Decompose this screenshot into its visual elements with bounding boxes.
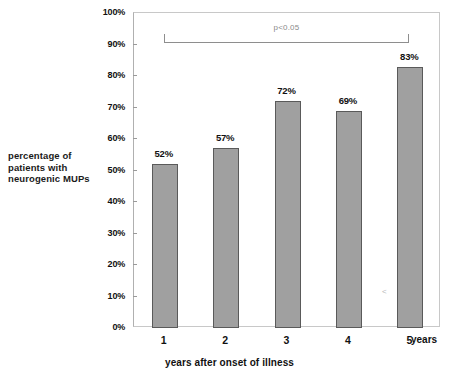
y-axis-tick-mark — [133, 75, 137, 76]
x-axis-tick-label: 2 — [200, 334, 250, 346]
y-axis-tick-label: 40% — [0, 196, 133, 206]
y-axis-tick-label: 60% — [0, 133, 133, 143]
y-axis-tick-mark — [133, 233, 137, 234]
y-axis-tick-label: 80% — [0, 70, 133, 80]
y-axis-tick-label: 100% — [0, 7, 133, 17]
y-axis-tick-mark — [133, 170, 137, 171]
y-axis-label-line-1: percentage of — [8, 150, 118, 162]
y-axis-tick-label: 50% — [0, 165, 133, 175]
significance-bracket — [164, 34, 410, 43]
y-axis-tick-label: 30% — [0, 228, 133, 238]
y-axis-tick-mark — [133, 44, 137, 45]
y-axis-tick-label: 10% — [0, 291, 133, 301]
bar-chart-figure: percentage of patients with neurogenic M… — [0, 0, 459, 378]
bar — [213, 148, 239, 328]
x-axis-unit-label: years — [411, 334, 437, 345]
bar-value-label: 83% — [384, 51, 434, 62]
significance-label: p<0.05 — [164, 23, 410, 32]
y-axis-tick-mark — [133, 138, 137, 139]
bar-value-label: 52% — [139, 148, 189, 159]
x-axis-tick-label: 1 — [139, 334, 189, 346]
y-axis-tick-label: 0% — [0, 322, 133, 332]
bar — [275, 101, 301, 328]
bar-value-label: 72% — [262, 85, 312, 96]
y-axis-tick-mark — [133, 201, 137, 202]
y-axis-tick-mark — [133, 107, 137, 108]
bar — [397, 67, 423, 328]
x-axis-title: years after onset of illness — [0, 357, 459, 368]
bar-value-label: 57% — [200, 132, 250, 143]
y-axis-tick-label: 20% — [0, 259, 133, 269]
y-axis-tick-mark — [133, 264, 137, 265]
y-axis-tick-label: 70% — [0, 102, 133, 112]
y-axis-tick-mark — [133, 296, 137, 297]
scan-artifact-mark: < — [382, 287, 387, 296]
bar-value-label: 69% — [323, 95, 373, 106]
bar — [336, 111, 362, 328]
y-axis-tick-label: 90% — [0, 39, 133, 49]
y-axis-label-line-3: neurogenic MUPs — [8, 173, 118, 185]
bar — [152, 164, 178, 328]
x-axis-tick-label: 3 — [262, 334, 312, 346]
x-axis-tick-label: 4 — [323, 334, 373, 346]
